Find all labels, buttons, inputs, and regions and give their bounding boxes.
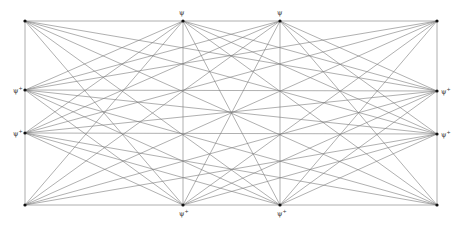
- vertex-point: [435, 203, 438, 206]
- construction-lines: [25, 21, 437, 205]
- construction-line: [25, 91, 437, 133]
- point-label: ψ+: [441, 130, 451, 139]
- point-label: ψ+: [441, 87, 451, 96]
- point-label: ψ+: [13, 129, 23, 138]
- vertex-point: [435, 132, 438, 135]
- point-label: ψ: [277, 10, 283, 17]
- vertex-point: [435, 19, 438, 22]
- point-label: ψ+: [277, 209, 287, 218]
- vertex-point: [278, 203, 281, 206]
- construction-line: [25, 90, 437, 91]
- vertex-point: [181, 19, 184, 22]
- point-label: ψ+: [179, 209, 189, 218]
- vertex-point: [23, 88, 26, 91]
- construction-line: [25, 133, 437, 134]
- vertex-point: [23, 19, 26, 22]
- vertex-point: [278, 19, 281, 22]
- point-label: ψ: [179, 10, 185, 17]
- vertex-point: [181, 203, 184, 206]
- vertex-point: [23, 203, 26, 206]
- vertex-point: [23, 131, 26, 134]
- vertex-point: [435, 89, 438, 92]
- point-label: ψ+: [13, 86, 23, 95]
- construction-diagram: [0, 0, 459, 227]
